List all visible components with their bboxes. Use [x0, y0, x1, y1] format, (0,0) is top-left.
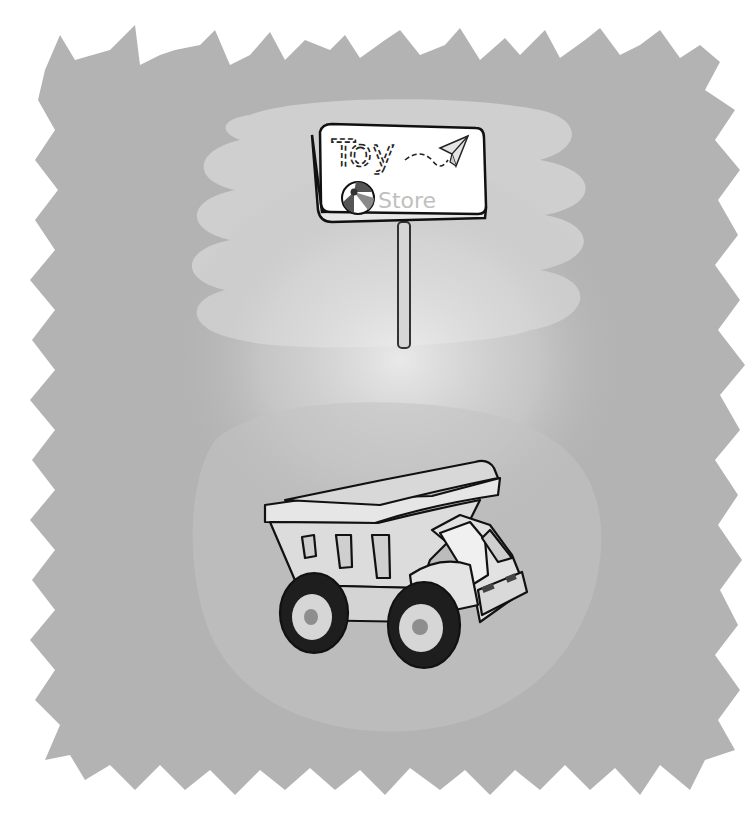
- truck-rear-wheel: [280, 573, 348, 653]
- beach-ball-icon: [342, 182, 374, 214]
- sign-subtitle-text: Store: [378, 188, 436, 213]
- sign-post: [398, 222, 410, 348]
- sign-title-text: Toy: [331, 131, 395, 175]
- illustration-canvas: Toy Store: [0, 0, 756, 816]
- truck-front-wheel: [388, 582, 460, 668]
